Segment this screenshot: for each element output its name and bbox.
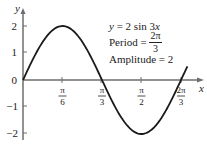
x-tick-label: π2 (138, 85, 146, 107)
period-numerator: 2π (149, 31, 161, 43)
y-tick-label: −1 (6, 100, 18, 112)
period-annotation: Period = 2π3 (109, 31, 162, 54)
svg-text:π: π (100, 85, 105, 95)
period-fraction: 2π3 (149, 31, 161, 54)
x-tick-label: π3 (98, 85, 106, 107)
x-tick-label: π6 (59, 85, 67, 107)
y-axis-label: y (14, 2, 20, 14)
x-axis-label: x (198, 82, 204, 94)
y-tick-label: 1 (12, 46, 18, 58)
sine-plot: 2 1 0 −1 −2 π6π3π22π3 y x (0, 0, 207, 154)
svg-text:π: π (139, 85, 144, 95)
period-label: Period = (109, 36, 149, 48)
amplitude-annotation: Amplitude = 2 (109, 54, 173, 65)
svg-text:3: 3 (100, 97, 105, 107)
svg-text:6: 6 (60, 97, 65, 107)
y-tick-label: 0 (12, 74, 18, 86)
x-tick-labels: π6π3π22π3 (59, 85, 186, 107)
svg-text:3: 3 (179, 97, 184, 107)
svg-text:2: 2 (139, 97, 144, 107)
y-tick-labels: 2 1 0 −1 −2 (6, 20, 18, 139)
y-axis-arrow (21, 8, 26, 14)
y-tick-label: 2 (12, 20, 18, 32)
y-tick-label: −2 (6, 127, 18, 139)
svg-text:π: π (60, 85, 65, 95)
